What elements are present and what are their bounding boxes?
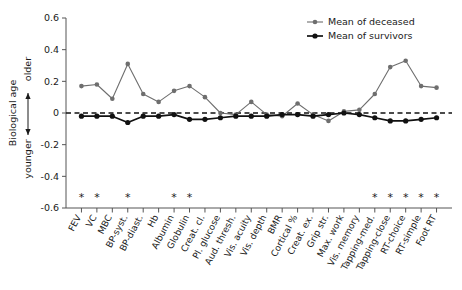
series-line (81, 113, 436, 123)
y-axis-direction-label: youngerolder (22, 57, 33, 179)
data-point (403, 58, 408, 63)
significance-marker: * (171, 191, 177, 204)
significance-marker: * (434, 191, 440, 204)
y-axis-older-label: older (22, 57, 33, 81)
data-point (233, 114, 238, 119)
data-point (95, 82, 100, 87)
data-point (171, 112, 176, 117)
data-point (156, 100, 161, 105)
data-point (388, 65, 393, 70)
data-point (79, 84, 84, 89)
data-point (94, 114, 99, 119)
data-point (280, 112, 285, 117)
y-axis-tick-label: -0.2 (40, 139, 59, 150)
y-axis-younger-label: younger (22, 139, 33, 178)
y-axis-tick-label: 0 (53, 107, 59, 118)
direction-arrow-head-left (25, 129, 30, 135)
y-axis-tick-label: -0.4 (40, 171, 59, 182)
data-point (326, 112, 331, 117)
data-point (310, 114, 315, 119)
data-point (125, 62, 130, 67)
y-axis-tick-label: 0.4 (44, 44, 59, 55)
data-point (403, 118, 408, 123)
series-line (81, 61, 436, 121)
data-point (357, 112, 362, 117)
data-point (295, 101, 300, 106)
significance-marker: * (187, 191, 193, 204)
data-point (249, 114, 254, 119)
significance-marker: * (387, 191, 393, 204)
data-point (388, 118, 393, 123)
data-point (203, 95, 208, 100)
data-point (264, 114, 269, 119)
x-axis-category-label: FEV (66, 213, 83, 233)
legend-label: Mean of deceased (328, 16, 415, 27)
data-point (357, 108, 362, 113)
legend-marker (312, 33, 317, 38)
data-point (202, 117, 207, 122)
data-point (372, 115, 377, 120)
chart-figure: 0.60.40.20-0.2-0.4-0.6FEV*VC*MBCBP-syst.… (0, 0, 462, 290)
data-point (156, 114, 161, 119)
direction-arrow-head (25, 93, 30, 99)
significance-marker: * (372, 191, 378, 204)
legend-marker (313, 20, 318, 25)
data-point (373, 92, 378, 97)
data-point (249, 100, 254, 105)
y-axis-tick-label: -0.6 (40, 202, 59, 213)
legend-label: Mean of survivors (328, 30, 413, 41)
data-point (295, 112, 300, 117)
x-axis-category-label: VC (84, 213, 99, 229)
y-axis-tick-label: 0.6 (44, 12, 59, 23)
y-axis-title: Biological age (7, 80, 18, 147)
significance-marker: * (418, 191, 424, 204)
significance-marker: * (79, 191, 85, 204)
data-point (172, 89, 177, 94)
data-point (110, 96, 115, 101)
data-point (218, 115, 223, 120)
significance-marker: * (403, 191, 409, 204)
data-point (419, 84, 424, 89)
data-point (218, 111, 223, 116)
legend: Mean of deceasedMean of survivors (307, 16, 415, 41)
data-point (434, 115, 439, 120)
data-point (79, 114, 84, 119)
data-point (434, 85, 439, 90)
data-point (110, 114, 115, 119)
significance-marker: * (125, 191, 131, 204)
data-point (141, 114, 146, 119)
significance-marker: * (94, 191, 100, 204)
data-point (187, 84, 192, 89)
data-point (341, 110, 346, 115)
data-point (187, 117, 192, 122)
data-point (141, 92, 146, 97)
biological-age-line-chart: 0.60.40.20-0.2-0.4-0.6FEV*VC*MBCBP-syst.… (0, 0, 462, 290)
y-axis-tick-label: 0.2 (44, 76, 59, 87)
x-axis-category-label: Hb (146, 213, 161, 229)
data-point (125, 120, 130, 125)
data-point (419, 117, 424, 122)
data-point (326, 119, 331, 124)
